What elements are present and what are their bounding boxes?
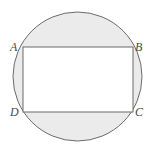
vertex-label-b: B (135, 41, 142, 53)
vertex-label-a: A (10, 41, 17, 53)
inscribed-rectangle (23, 47, 133, 112)
vertex-label-d: D (10, 106, 19, 118)
geometry-figure: A B D C (0, 0, 157, 150)
geometry-canvas (0, 0, 157, 150)
vertex-label-c: C (135, 106, 143, 118)
